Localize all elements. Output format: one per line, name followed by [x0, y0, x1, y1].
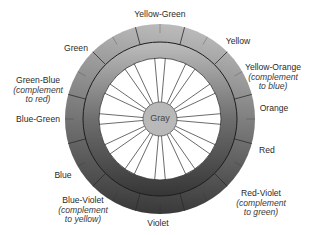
label-name: Orange: [260, 103, 289, 113]
label-note-line2: to red): [8, 95, 68, 105]
center-label-gray: Gray: [143, 114, 177, 124]
label-yellow-orange: Yellow-Orange (complement to blue): [238, 63, 308, 92]
label-name: Blue-Green: [16, 114, 60, 124]
label-green: Green: [56, 44, 96, 54]
label-blue: Blue: [48, 171, 78, 181]
label-red-violet: Red-Violet (complement to green): [226, 189, 296, 218]
label-note-line2: to yellow): [50, 215, 116, 225]
label-name: Blue: [54, 170, 71, 180]
label-violet: Violet: [138, 219, 178, 229]
label-name: Yellow: [226, 36, 251, 46]
label-yellow: Yellow: [218, 37, 258, 47]
label-blue-violet: Blue-Violet (complement to yellow): [50, 196, 116, 225]
label-green-blue: Green-Blue (complement to red): [8, 76, 68, 105]
label-name: Yellow-Green: [134, 9, 185, 19]
label-yellow-green: Yellow-Green: [120, 10, 200, 20]
label-name: Red: [259, 145, 275, 155]
label-note-line2: to blue): [238, 82, 308, 92]
label-note-line2: to green): [226, 208, 296, 218]
label-name: Violet: [147, 218, 168, 228]
label-name: Green: [64, 43, 88, 53]
label-blue-green: Blue-Green: [8, 115, 68, 125]
label-red: Red: [252, 146, 282, 156]
label-orange: Orange: [254, 104, 294, 114]
